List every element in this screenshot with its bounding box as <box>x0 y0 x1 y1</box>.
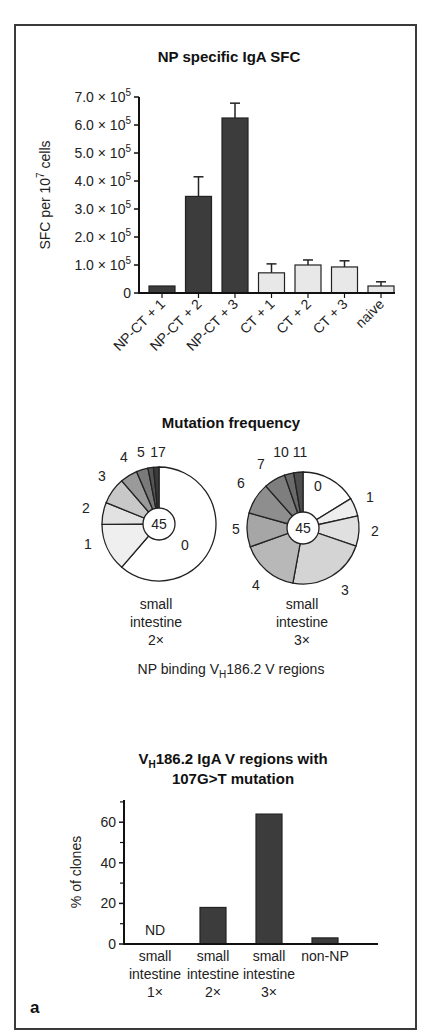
y-tick-label: 5.0 × 105 <box>74 143 131 161</box>
sfc-bars <box>149 103 394 293</box>
bar <box>259 273 285 293</box>
bar <box>149 286 175 293</box>
pie-slice-label: 5 <box>137 444 145 460</box>
x-tick-label: 2× <box>205 984 221 1000</box>
x-tick-label: small <box>139 948 172 964</box>
sfc-bar-chart: NP specific IgA SFC SFC per 107 cells 01… <box>35 48 395 354</box>
pie-slice-label: 11 <box>293 444 308 460</box>
y-tick-label: 20 <box>100 895 116 911</box>
pie-slice-label: 4 <box>120 449 128 465</box>
pie-slice-label: 7 <box>257 456 265 472</box>
mutation-frequency-pies: Mutation frequency 4501234517 4501234567… <box>82 414 379 680</box>
mutation-bars: ND <box>145 814 338 944</box>
pie-slice-label: 2 <box>371 523 379 539</box>
sfc-chart-title: NP specific IgA SFC <box>158 48 301 65</box>
mutation-chart-title-line1: VH186.2 IgA V regions with <box>138 750 327 770</box>
y-tick-label: 0 <box>123 285 131 301</box>
bar <box>332 267 358 293</box>
pie-slice-label: 0 <box>181 537 189 553</box>
pie-3x-caption: smallintestine3× <box>276 596 328 648</box>
mutation-y-axis-label: % of clones <box>68 836 84 908</box>
y-tick-label: 6.0 × 105 <box>74 115 131 133</box>
pie-caption-line: 3× <box>294 632 310 648</box>
x-tick-label: 1× <box>147 984 163 1000</box>
x-tick-label: small <box>197 948 230 964</box>
sfc-y-axis-label: SFC per 107 cells <box>35 140 53 249</box>
pie-caption-line: small <box>286 596 319 612</box>
pie-2x-caption: smallintestine2× <box>130 596 182 648</box>
x-tick-label: non-NP <box>301 948 348 964</box>
panel-label: a <box>30 998 40 1017</box>
x-tick-label: small <box>253 948 286 964</box>
x-tick-label: CT + 2 <box>273 296 314 337</box>
pie-center-label: 45 <box>151 516 167 532</box>
pie-slice-label: 3 <box>341 582 349 598</box>
x-tick-label: CT + 1 <box>236 296 277 337</box>
mutation-x-axis-labels: smallintestine1×smallintestine2×smallint… <box>129 948 349 1000</box>
y-tick-label: 7.0 × 105 <box>74 87 131 105</box>
x-tick-label: intestine <box>243 966 295 982</box>
pie-caption-line: small <box>140 596 173 612</box>
mutation-frequency-title: Mutation frequency <box>162 414 301 431</box>
pie-small-intestine-3x: 45012345671011 <box>232 444 379 598</box>
pie-slice-label: 3 <box>98 468 106 484</box>
y-tick-label: 3.0 × 105 <box>74 199 131 217</box>
mutation-chart-title-line2: 107G>T mutation <box>172 770 294 787</box>
pie-slice-label: 10 <box>273 444 289 460</box>
pie-caption-line: intestine <box>276 614 328 630</box>
bar <box>368 286 394 293</box>
x-tick-label: intestine <box>129 966 181 982</box>
pie-slice-label: 6 <box>237 475 245 491</box>
pie-slice-label: 5 <box>232 521 240 537</box>
bar <box>186 196 212 293</box>
bar <box>222 118 248 293</box>
y-tick-label: 4.0 × 105 <box>74 171 131 189</box>
pie-center-label: 45 <box>295 520 311 536</box>
pie-slice-label: 2 <box>82 500 90 516</box>
y-tick-label: 1.0 × 105 <box>74 255 131 273</box>
x-tick-label: intestine <box>187 966 239 982</box>
sfc-x-axis-labels: NP-CT + 1NP-CT + 2NP-CT + 3CT + 1CT + 2C… <box>110 293 387 354</box>
y-tick-label: 0 <box>108 936 116 952</box>
y-tick-label: 60 <box>100 814 116 830</box>
nd-annotation: ND <box>145 922 165 938</box>
mutation-107-bar-chart: VH186.2 IgA V regions with 107G>T mutati… <box>68 750 378 1000</box>
bar <box>200 907 226 944</box>
pie-slice-label: 1 <box>366 489 374 505</box>
figure-canvas: NP specific IgA SFC SFC per 107 cells 01… <box>0 0 424 1033</box>
pie-subtitle: NP binding VH186.2 V regions <box>138 661 325 680</box>
y-tick-label: 40 <box>100 855 116 871</box>
bar <box>295 265 321 293</box>
pie-slice-label: 0 <box>314 478 322 494</box>
pie-caption-line: 2× <box>148 632 164 648</box>
mutation-y-axis-ticks: 0204060 <box>100 802 124 952</box>
x-tick-label: CT + 3 <box>309 296 350 337</box>
x-tick-label: naive <box>352 296 387 331</box>
y-tick-label: 2.0 × 105 <box>74 227 131 245</box>
sfc-y-axis-ticks: 01.0 × 1052.0 × 1053.0 × 1054.0 × 1055.0… <box>74 87 139 301</box>
pie-caption-line: intestine <box>130 614 182 630</box>
pie-slice-label: 17 <box>150 444 166 460</box>
pie-slice-label: 4 <box>252 577 260 593</box>
pie-slice-label: 1 <box>84 536 92 552</box>
pie-small-intestine-2x: 4501234517 <box>82 444 216 581</box>
bar <box>256 814 282 944</box>
x-tick-label: 3× <box>261 984 277 1000</box>
